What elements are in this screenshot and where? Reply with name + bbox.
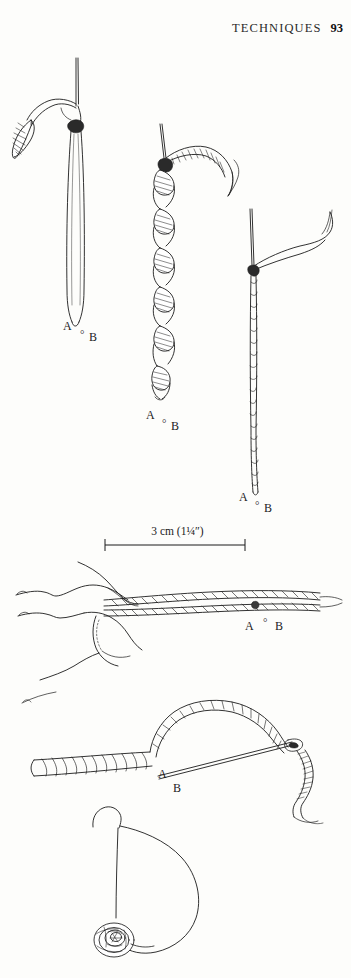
book-page: TECHNIQUES93	[0, 0, 351, 978]
figure-6-knotted-cord-loop	[0, 0, 351, 978]
